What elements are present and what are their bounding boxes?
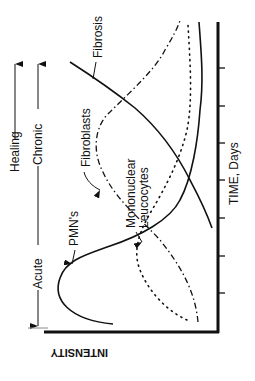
chronic-label: Chronic xyxy=(31,124,45,165)
mononuclear-label-1: Mononuclear xyxy=(124,159,138,228)
fibroblasts-pointer xyxy=(84,172,100,190)
fibrosis-pointer xyxy=(93,62,96,79)
inflammation-chart: TIME, Days INTENSITY Healing Chronic Acu… xyxy=(0,0,255,381)
pmns-label: PMN's xyxy=(67,211,81,246)
fibroblasts-label: Fibroblasts xyxy=(79,108,93,167)
mononuclear-label-2: Leucocytes xyxy=(137,167,151,228)
healing-label: Healing xyxy=(8,131,22,172)
acute-label: Acute xyxy=(31,258,45,289)
x-axis-label: TIME, Days xyxy=(227,142,241,205)
fibrosis-label: Fibrosis xyxy=(91,16,105,58)
y-axis-label: INTENSITY xyxy=(50,347,108,359)
